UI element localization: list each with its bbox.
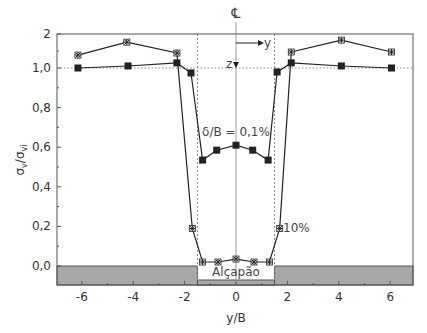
plot-frame: [57, 34, 413, 285]
x-tick-label: 2: [284, 290, 292, 304]
square-marker: [265, 157, 272, 164]
square-marker: [173, 59, 180, 66]
y-axis-title: σv/σvi: [13, 145, 29, 176]
square-marker: [125, 62, 132, 69]
y-arrow-label: y: [264, 36, 271, 50]
z-arrow-head-icon: [233, 62, 239, 68]
square-marker: [188, 69, 195, 76]
star-icon: [75, 52, 81, 58]
star-marker: [189, 225, 195, 231]
star-icon: [338, 37, 344, 43]
y-tick-label: 2: [43, 27, 51, 41]
star-icon: [189, 225, 195, 231]
star-marker: [174, 50, 180, 56]
star-icon: [277, 225, 283, 231]
star-marker: [124, 39, 130, 45]
series-line-2: [78, 40, 392, 262]
square-marker: [74, 65, 81, 72]
star-marker: [277, 225, 283, 231]
chart: -6-4-202460,00,20,40,60,81,02 ℄ y z δ/B …: [0, 0, 427, 333]
trapdoor-label: Alçapão: [212, 265, 260, 279]
axes: -6-4-202460,00,20,40,60,81,02: [32, 27, 413, 304]
star-icon: [124, 39, 130, 45]
y-tick-label: 0,4: [32, 180, 51, 194]
reference-lines: [57, 22, 413, 285]
square-marker: [213, 147, 220, 154]
centerline-symbol: ℄: [231, 5, 241, 21]
square-marker: [199, 157, 206, 164]
x-axis-title: y/B: [226, 311, 245, 325]
y-tick-label: 0,8: [32, 101, 51, 115]
y-tick-label: 0,6: [32, 140, 51, 154]
square-marker: [249, 147, 256, 154]
star-icon: [174, 50, 180, 56]
square-marker: [338, 62, 345, 69]
star-icon: [233, 256, 239, 262]
star-marker: [200, 259, 206, 265]
series1-label: δ/B = 0,1%: [202, 125, 270, 139]
y-tick-label: 1,0: [32, 61, 51, 75]
x-tick-label: 4: [335, 290, 343, 304]
data-series: [74, 37, 395, 265]
y-tick-label: 0,2: [32, 219, 51, 233]
x-tick-label: -6: [76, 290, 88, 304]
star-marker: [338, 37, 344, 43]
soil-left: [57, 266, 197, 285]
star-icon: [200, 259, 206, 265]
square-marker: [233, 142, 240, 149]
star-marker: [388, 49, 394, 55]
star-marker: [233, 256, 239, 262]
z-arrow-label: z: [226, 57, 232, 71]
x-tick-label: 6: [386, 290, 394, 304]
x-tick-label: 0: [232, 290, 240, 304]
y-tick-label: 0,0: [32, 259, 51, 273]
square-marker: [274, 68, 281, 75]
x-tick-label: -4: [127, 290, 139, 304]
star-icon: [266, 259, 272, 265]
star-marker: [288, 49, 294, 55]
star-icon: [288, 49, 294, 55]
x-tick-label: -2: [179, 290, 191, 304]
square-marker: [388, 65, 395, 72]
series2-label: 10%: [283, 221, 310, 235]
soil-right: [275, 266, 413, 285]
star-marker: [266, 259, 272, 265]
star-marker: [75, 52, 81, 58]
star-icon: [388, 49, 394, 55]
